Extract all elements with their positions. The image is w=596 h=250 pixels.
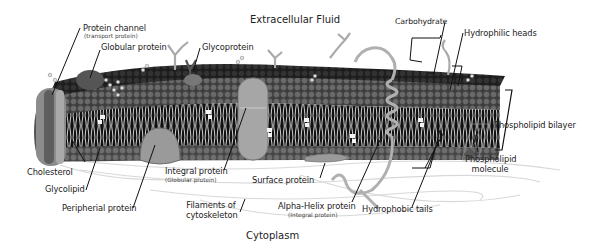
filaments-line2: cytoskeleton — [186, 210, 236, 220]
alpha-helix-sublabel: (Integral protein) — [288, 212, 337, 219]
extracellular-fluid-label: Extracellular Fluid — [250, 14, 340, 26]
peripherial-protein-label: Peripherial protein — [62, 203, 137, 213]
protein-channel-shape — [36, 88, 66, 166]
carbohydrate-bracket — [410, 22, 445, 73]
filaments-label: Filaments of cytoskeleton — [186, 200, 236, 220]
surface-protein-label: Surface protein — [252, 175, 314, 185]
glycoprotein-label: Glycoprotein — [202, 42, 254, 52]
hydrophilic-heads-label: Hydrophilic heads — [464, 28, 537, 38]
protein-channel-sublabel: (transport protein) — [84, 33, 138, 40]
cholesterol-label: Cholesterol — [27, 167, 73, 177]
phospholipid-bilayer-label: Phospholipid bilayer — [494, 120, 576, 130]
cell-membrane-diagram: Extracellular Fluid Cytoplasm Protein ch… — [0, 0, 596, 250]
alpha-helix-label: Alpha-Helix protein — [278, 201, 356, 211]
phospholipid-molecule-label: Phospholipid molecule — [465, 154, 515, 174]
hydrophobic-tails-label: Hydrophobic tails — [362, 204, 433, 214]
integral-protein-sublabel: (Globular protein) — [165, 177, 217, 184]
carbohydrate-label: Carbohydrate — [395, 17, 447, 27]
globular-protein-shape — [76, 70, 104, 90]
filaments-line1: Filaments of — [186, 200, 236, 210]
integral-protein-label: Integral protein — [165, 166, 228, 176]
glycolipid-label: Glycolipid — [45, 184, 85, 194]
phospholipid-molecule-line2: molecule — [465, 164, 515, 174]
protein-channel-label: Protein channel — [83, 23, 146, 33]
cytoplasm-label: Cytoplasm — [246, 230, 299, 242]
phospholipid-molecule-line1: Phospholipid — [465, 154, 515, 164]
globular-protein-label: Globular protein — [101, 42, 167, 52]
